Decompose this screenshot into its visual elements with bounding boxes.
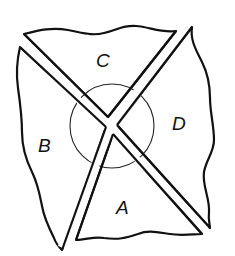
label-d: D [172, 113, 186, 134]
band-edge [108, 31, 176, 117]
band-edge [113, 134, 202, 234]
label-a: A [115, 197, 129, 218]
region-b [17, 47, 106, 250]
band-edge [117, 27, 192, 125]
band-edge [62, 127, 106, 250]
diagram-canvas: C D B A [0, 0, 235, 256]
band-edge [76, 134, 113, 240]
band-edge [117, 125, 210, 228]
label-c: C [96, 50, 110, 71]
band-edge [24, 34, 108, 117]
label-b: B [38, 135, 51, 156]
band-edge [20, 47, 106, 127]
